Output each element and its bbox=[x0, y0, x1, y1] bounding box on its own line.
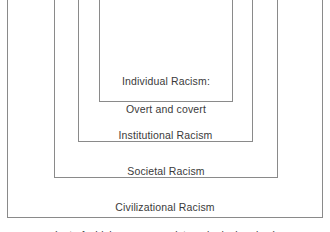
label-civilizational-racism: Civilizational Racism (out of which emer… bbox=[7, 186, 323, 232]
label-institutional-racism-line-1: Institutional Racism bbox=[78, 128, 253, 142]
label-civilizational-racism-line-1: Civilizational Racism bbox=[7, 200, 323, 214]
label-individual-racism-line-1: Individual Racism: bbox=[99, 74, 233, 88]
label-civilizational-racism-line-2: (out of which emerges epistemological ra… bbox=[7, 228, 323, 232]
nested-racism-diagram: Individual Racism: Overt and covert Inst… bbox=[0, 0, 330, 232]
label-societal-racism-line-1: Societal Racism bbox=[54, 164, 278, 178]
